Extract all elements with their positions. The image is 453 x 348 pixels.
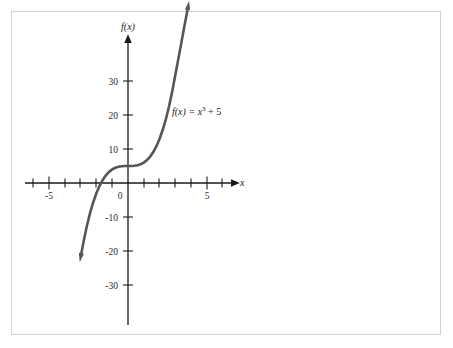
xtick-label-5: 5 (205, 191, 210, 201)
xtick-label-neg5: -5 (45, 191, 53, 201)
ytick-label-20: 20 (109, 111, 119, 121)
ytick-label-30: 30 (109, 77, 119, 87)
function-graph: -5 0 5 30 20 10 -10 -20 -30 x f(x) f(x) … (0, 0, 453, 348)
y-axis-label: f(x) (121, 21, 136, 33)
curve-upper-stem (175, 10, 188, 79)
equation-annotation: f(x) = x3 + 5 (172, 105, 221, 118)
ytick-label-10: 10 (109, 145, 119, 155)
ytick-label-neg20: -20 (105, 247, 118, 257)
curve-arrowhead-bottom (79, 253, 84, 262)
equation-tail: + 5 (206, 106, 222, 117)
svg-text:f(x) = x3 + 5: f(x) = x3 + 5 (172, 105, 221, 118)
figure-canvas: -5 0 5 30 20 10 -10 -20 -30 x f(x) f(x) … (0, 0, 453, 348)
ytick-label-neg10: -10 (105, 213, 118, 223)
curve-arrowhead-top (185, 1, 190, 10)
curve-f-of-x (79, 1, 190, 278)
equation-lhs: f(x) = x (172, 106, 203, 118)
xtick-label-zero: 0 (118, 191, 123, 201)
ytick-label-neg30: -30 (105, 281, 118, 291)
x-axis-label: x (239, 177, 245, 188)
